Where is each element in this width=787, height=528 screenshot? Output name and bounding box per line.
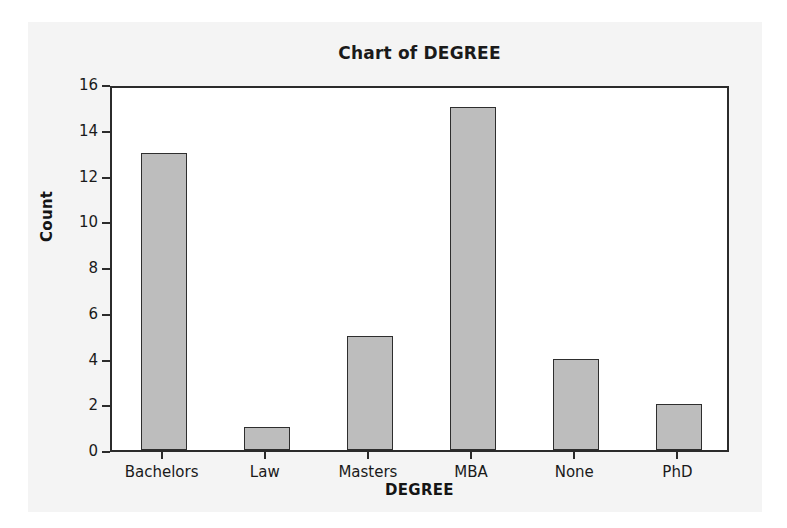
y-tick-label: 14 bbox=[79, 122, 98, 140]
y-tick-label: 6 bbox=[88, 305, 98, 323]
bars-layer bbox=[112, 88, 727, 450]
y-axis: 0246810121416 bbox=[0, 86, 110, 452]
x-tick-label: PhD bbox=[662, 463, 692, 481]
y-tick-mark bbox=[102, 222, 110, 224]
x-tick-mark bbox=[470, 452, 472, 459]
y-tick-mark bbox=[102, 85, 110, 87]
x-tick-mark bbox=[367, 452, 369, 459]
x-tick-label: Masters bbox=[338, 463, 397, 481]
y-tick-mark bbox=[102, 314, 110, 316]
y-axis-title: Count bbox=[38, 191, 56, 242]
y-tick-label: 12 bbox=[79, 168, 98, 186]
y-tick-mark bbox=[102, 268, 110, 270]
y-tick-mark bbox=[102, 131, 110, 133]
y-tick-label: 16 bbox=[79, 76, 98, 94]
y-tick-label: 10 bbox=[79, 213, 98, 231]
chart-title: Chart of DEGREE bbox=[110, 42, 729, 64]
bar-mba bbox=[450, 107, 496, 450]
y-tick-mark bbox=[102, 451, 110, 453]
x-tick-mark bbox=[573, 452, 575, 459]
x-tick-label: Bachelors bbox=[125, 463, 199, 481]
y-tick-mark bbox=[102, 405, 110, 407]
plot-area bbox=[110, 86, 729, 452]
y-tick-label: 8 bbox=[88, 259, 98, 277]
bar-phd bbox=[656, 404, 702, 450]
y-tick-label: 0 bbox=[88, 442, 98, 460]
x-tick-label: None bbox=[555, 463, 594, 481]
bar-law bbox=[244, 427, 290, 450]
x-tick-mark bbox=[676, 452, 678, 459]
y-tick-label: 2 bbox=[88, 396, 98, 414]
x-tick-mark bbox=[264, 452, 266, 459]
bar-bachelors bbox=[141, 153, 187, 450]
bar-none bbox=[553, 359, 599, 451]
x-tick-label: Law bbox=[250, 463, 280, 481]
bar-masters bbox=[347, 336, 393, 450]
y-tick-label: 4 bbox=[88, 351, 98, 369]
y-tick-mark bbox=[102, 360, 110, 362]
chart-screenshot: Chart of DEGREE 0246810121416 Count Bach… bbox=[0, 0, 787, 528]
x-axis-title: DEGREE bbox=[110, 481, 729, 499]
x-tick-label: MBA bbox=[454, 463, 488, 481]
y-tick-mark bbox=[102, 177, 110, 179]
x-tick-mark bbox=[161, 452, 163, 459]
